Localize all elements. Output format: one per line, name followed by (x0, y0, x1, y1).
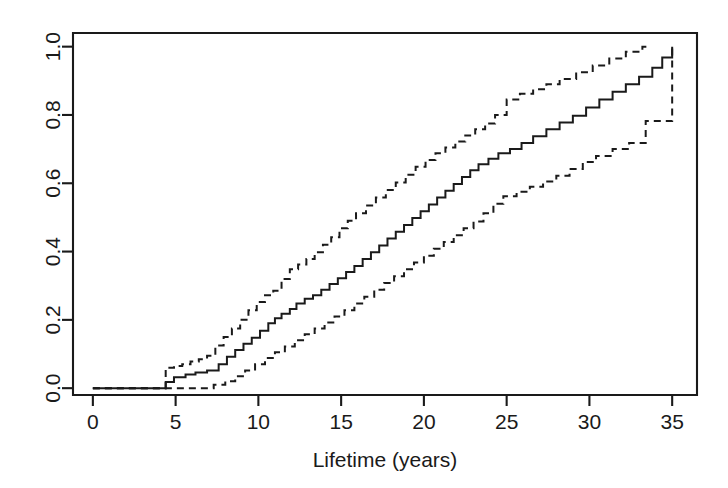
series-path (93, 47, 672, 389)
axis-labels: 051015202530350.00.20.40.60.81.0 (42, 32, 684, 433)
x-tick-label: 20 (412, 410, 435, 433)
series-path (93, 47, 649, 389)
y-tick-label: 1.0 (42, 32, 65, 61)
y-tick-label: 0.2 (42, 305, 65, 334)
ecdf-plot: 051015202530350.00.20.40.60.81.0 Lifetim… (0, 0, 728, 488)
axis-ticks (62, 47, 672, 406)
x-tick-label: 35 (660, 410, 683, 433)
data-curves (93, 47, 672, 389)
chart-figure: 051015202530350.00.20.40.60.81.0 Lifetim… (0, 0, 728, 488)
x-tick-label: 15 (329, 410, 352, 433)
y-tick-label: 0.8 (42, 100, 65, 129)
x-tick-label: 0 (87, 410, 99, 433)
y-tick-label: 0.4 (42, 237, 65, 267)
y-tick-label: 0.6 (42, 169, 65, 198)
series-path (93, 47, 672, 389)
plot-box (73, 33, 697, 395)
plot-frame (73, 33, 697, 395)
y-tick-label: 0.0 (42, 374, 65, 403)
x-tick-label: 30 (578, 410, 601, 433)
x-axis-title: Lifetime (years) (313, 448, 458, 471)
x-tick-label: 5 (170, 410, 182, 433)
x-tick-label: 25 (495, 410, 518, 433)
x-tick-label: 10 (247, 410, 270, 433)
